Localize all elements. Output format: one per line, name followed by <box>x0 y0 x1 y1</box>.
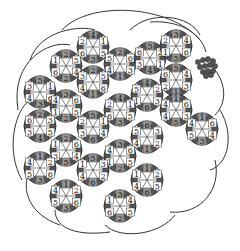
cell-label: 4 <box>128 196 133 205</box>
ring: 263145 <box>104 48 136 81</box>
cell-label: 2 <box>80 37 85 46</box>
cell-label: 3 <box>199 137 204 146</box>
grape-cluster-icon <box>195 56 217 78</box>
ring: 256143 <box>77 66 109 99</box>
cell-label: 5 <box>147 42 152 51</box>
cell-label: 5 <box>101 72 106 81</box>
cell-label: 5 <box>173 118 178 127</box>
cell-label: 3 <box>27 82 32 91</box>
cell-label: 6 <box>144 121 149 130</box>
cell-label: 5 <box>107 54 112 63</box>
cell-label: 6 <box>210 119 215 128</box>
grape-berry <box>197 64 202 69</box>
grape-berry <box>212 63 217 68</box>
cell-label: 2 <box>155 139 160 148</box>
cell-label: 4 <box>189 119 194 128</box>
cell-label: 6 <box>128 146 133 155</box>
cell-label: 1 <box>173 94 178 103</box>
cell-label: 4 <box>117 94 122 103</box>
cell-label: 4 <box>163 100 168 109</box>
diagram-canvas: 4153622631452542615214363465125431265163… <box>0 0 240 251</box>
cell-label: 6 <box>74 140 79 149</box>
cell-label: 1 <box>163 48 168 57</box>
cell-label: 3 <box>117 140 122 149</box>
cell-label: 4 <box>134 139 139 148</box>
cell-label: 1 <box>144 145 149 154</box>
cell-label: 2 <box>155 85 160 94</box>
cell-label: 4 <box>163 112 168 121</box>
cell-label: 2 <box>63 114 68 123</box>
cell-label: 3 <box>101 160 106 169</box>
outer-arc <box>130 17 200 35</box>
ring: 632145 <box>131 121 163 154</box>
cell-label: 1 <box>90 90 95 99</box>
cell-label: 5 <box>155 182 160 191</box>
cell-label: 2 <box>163 82 168 91</box>
cell-label: 5 <box>128 112 133 121</box>
cell-label: 2 <box>74 186 79 195</box>
ring: 125641 <box>131 164 163 197</box>
cell-label: 1 <box>128 100 133 109</box>
grape-berry <box>202 63 207 68</box>
cell-label: 6 <box>144 103 149 112</box>
cell-label: 5 <box>37 76 42 85</box>
cell-label: 6 <box>107 112 112 121</box>
cell-label: 3 <box>184 82 189 91</box>
cell-label: 1 <box>117 72 122 81</box>
cell-label: 2 <box>117 48 122 57</box>
grape-berry <box>207 62 212 67</box>
cell-label: 4 <box>53 186 58 195</box>
cell-label: 3 <box>27 128 32 137</box>
cell-label: 1 <box>53 140 58 149</box>
cell-label: 5 <box>173 54 178 63</box>
cell-label: 6 <box>90 135 95 144</box>
cell-label: 6 <box>48 170 53 179</box>
ring: 126354 <box>50 180 82 213</box>
ring: 415362 <box>77 31 109 64</box>
cell-label: 4 <box>74 152 79 161</box>
cell-label: 3 <box>117 190 122 199</box>
cell-label: 2 <box>117 214 122 223</box>
cell-label: 5 <box>74 56 79 65</box>
cell-label: 6 <box>137 48 142 57</box>
cell-label: 2 <box>107 100 112 109</box>
cell-label: 3 <box>173 30 178 39</box>
cell-label: 6 <box>90 178 95 187</box>
cell-label: 5 <box>90 154 95 163</box>
cell-label: 6 <box>184 48 189 57</box>
cell-label: 5 <box>90 111 95 120</box>
cell-label: 5 <box>74 108 79 117</box>
cell-label: 3 <box>48 116 53 125</box>
cell-label: 5 <box>134 85 139 94</box>
cell-label: 6 <box>163 70 168 79</box>
cell-label: 6 <box>27 116 32 125</box>
cell-label: 1 <box>101 117 106 126</box>
cell-label: 2 <box>37 110 42 119</box>
cell-label: 1 <box>80 160 85 169</box>
cell-label: 5 <box>173 64 178 73</box>
cell-label: 5 <box>53 198 58 207</box>
cell-label: 3 <box>63 204 68 213</box>
cell-label: 1 <box>53 56 58 65</box>
ring: 532641 <box>77 154 109 187</box>
cell-label: 3 <box>155 127 160 136</box>
cell-label: 5 <box>128 158 133 167</box>
cell-label: 5 <box>48 128 53 137</box>
cell-label: 2 <box>80 117 85 126</box>
cell-label: 2 <box>48 158 53 167</box>
cell-label: 1 <box>107 158 112 167</box>
cell-label: 1 <box>48 82 53 91</box>
cell-label: 5 <box>128 208 133 217</box>
cell-label: 3 <box>80 129 85 138</box>
cell-label: 5 <box>27 170 32 179</box>
cell-label: 2 <box>90 66 95 75</box>
grape-berry <box>205 56 210 61</box>
cell-label: 4 <box>101 129 106 138</box>
hex-ring-diagram: 4153622631452542615214363465125431265163… <box>0 0 240 251</box>
cell-label: 6 <box>107 208 112 217</box>
cell-label: 3 <box>155 97 160 106</box>
ring: 346512 <box>160 30 192 63</box>
cell-label: 1 <box>63 180 68 189</box>
ring-grid: 4153622631452542615214363465125431265163… <box>24 30 218 223</box>
cell-label: 2 <box>63 50 68 59</box>
